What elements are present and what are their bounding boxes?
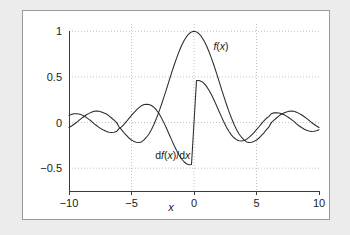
y-tick-label: 1 [56, 25, 62, 37]
y-tick-label: −0.5 [40, 162, 62, 174]
y-tick-label: 0 [56, 117, 62, 129]
x-tick-label: 10 [313, 197, 325, 209]
x-axis-title: x [167, 201, 174, 213]
x-tick-label: 5 [253, 197, 259, 209]
x-tick-label: −10 [60, 197, 79, 209]
x-tick-label: −5 [125, 197, 138, 209]
curve-annotation: f(x) [213, 40, 228, 52]
chart-plot: −10−50510−0.500.51 f(x)df(x)/dx x [23, 11, 329, 219]
x-tick-label: 0 [191, 197, 197, 209]
curve-annotations: f(x)df(x)/dx [155, 40, 228, 162]
gridlines [69, 24, 319, 191]
curve-annotation: df(x)/dx [155, 149, 191, 161]
figure-card: −10−50510−0.500.51 f(x)df(x)/dx x [22, 10, 330, 220]
axis-ticks [69, 191, 319, 195]
y-tick-label: 0.5 [47, 71, 62, 83]
